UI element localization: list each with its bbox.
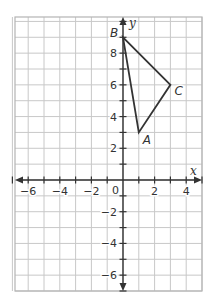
vertex-label-b: B xyxy=(110,26,118,40)
x-axis-left-arrow-icon xyxy=(15,177,23,184)
y-tick-label: −2 xyxy=(101,206,117,219)
x-tick-label: −2 xyxy=(83,185,99,198)
y-tick-label: 8 xyxy=(110,47,117,60)
y-tick-label: −4 xyxy=(101,237,117,250)
x-tick-label: −6 xyxy=(20,185,36,198)
y-axis-down-arrow-icon xyxy=(120,283,127,291)
x-tick-label: 2 xyxy=(151,185,158,198)
vertex-labels: ABC xyxy=(110,26,183,147)
y-tick-label: 6 xyxy=(110,79,117,92)
origin-label: 0 xyxy=(112,184,119,197)
vertex-label-c: C xyxy=(174,84,183,98)
y-tick-label: −6 xyxy=(101,269,117,282)
x-tick-label: 4 xyxy=(183,185,190,198)
vertex-label-a: A xyxy=(142,133,151,147)
y-axis-label: y xyxy=(128,16,136,30)
x-axis-label: x xyxy=(190,164,197,178)
y-tick-label: 2 xyxy=(110,142,117,155)
y-tick-label: 4 xyxy=(110,111,117,124)
x-tick-label: −4 xyxy=(52,185,68,198)
coordinate-plane: −6−4−224−6−4−22468 ABC x y 0 xyxy=(0,0,208,302)
